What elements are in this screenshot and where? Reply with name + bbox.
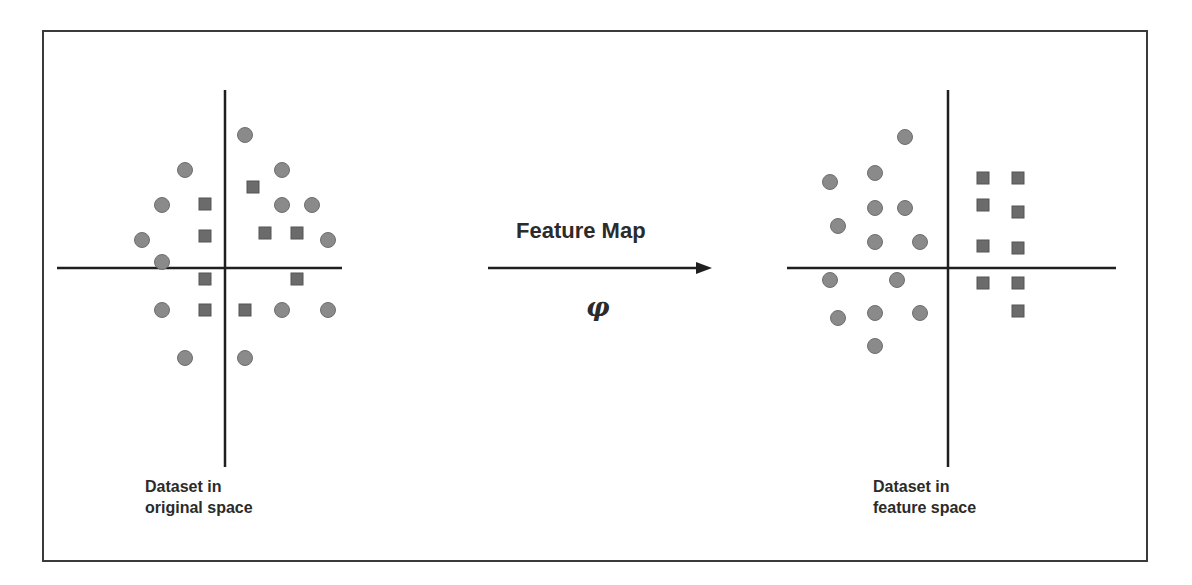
phi-symbol: φ <box>586 292 610 322</box>
square-point-icon <box>1012 242 1024 254</box>
square-point-icon <box>247 181 259 193</box>
circle-point-icon <box>913 306 928 321</box>
circle-point-icon <box>238 351 253 366</box>
circle-point-icon <box>155 198 170 213</box>
circle-point-icon <box>823 175 838 190</box>
square-point-icon <box>977 240 989 252</box>
circle-point-icon <box>155 255 170 270</box>
square-point-icon <box>977 199 989 211</box>
caption-line: feature space <box>873 497 976 518</box>
feature-space-caption: Dataset in feature space <box>873 476 976 518</box>
circle-point-icon <box>890 273 905 288</box>
feature-space-plot <box>787 90 1116 467</box>
feature-map-title: Feature Map <box>516 218 646 244</box>
circle-point-icon <box>868 306 883 321</box>
circle-point-icon <box>868 201 883 216</box>
circle-point-icon <box>868 166 883 181</box>
square-point-icon <box>291 273 303 285</box>
caption-line: Dataset in <box>145 476 253 497</box>
square-point-icon <box>977 277 989 289</box>
square-point-icon <box>259 227 271 239</box>
original-space-caption: Dataset in original space <box>145 476 253 518</box>
square-point-icon <box>1012 305 1024 317</box>
square-point-icon <box>199 198 211 210</box>
circle-point-icon <box>275 198 290 213</box>
square-point-icon <box>199 304 211 316</box>
circle-point-icon <box>868 235 883 250</box>
circle-point-icon <box>831 219 846 234</box>
square-point-icon <box>1012 206 1024 218</box>
circle-point-icon <box>321 233 336 248</box>
square-point-icon <box>239 304 251 316</box>
square-point-icon <box>199 273 211 285</box>
original-space-plot <box>57 90 342 467</box>
circle-point-icon <box>135 233 150 248</box>
circle-point-icon <box>898 130 913 145</box>
circle-point-icon <box>321 303 336 318</box>
circle-point-icon <box>305 198 320 213</box>
circle-point-icon <box>178 351 193 366</box>
square-point-icon <box>1012 277 1024 289</box>
circle-point-icon <box>275 163 290 178</box>
circle-point-icon <box>823 273 838 288</box>
circle-point-icon <box>238 128 253 143</box>
feature-map-arrow-icon <box>488 262 712 274</box>
circle-point-icon <box>178 163 193 178</box>
circle-point-icon <box>913 235 928 250</box>
circle-point-icon <box>275 303 290 318</box>
circle-point-icon <box>898 201 913 216</box>
square-point-icon <box>977 172 989 184</box>
circle-point-icon <box>831 311 846 326</box>
square-point-icon <box>199 230 211 242</box>
square-point-icon <box>291 227 303 239</box>
circle-point-icon <box>868 339 883 354</box>
circle-point-icon <box>155 303 170 318</box>
square-point-icon <box>1012 172 1024 184</box>
caption-line: Dataset in <box>873 476 976 497</box>
caption-line: original space <box>145 497 253 518</box>
